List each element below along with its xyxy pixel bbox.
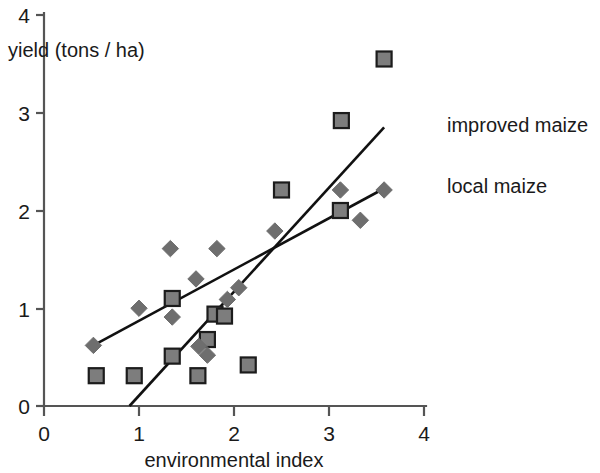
data-point-square — [334, 113, 349, 128]
data-point-square — [190, 368, 205, 383]
y-axis-title: yield (tons / ha) — [8, 39, 145, 61]
y-tick-label-3: 3 — [18, 102, 30, 125]
data-point-square — [165, 349, 180, 364]
data-point-diamond — [332, 182, 348, 198]
data-point-diamond — [164, 309, 180, 325]
chart-page: 4 3 2 1 0 0 1 2 3 4 yield (tons / ha) en… — [0, 0, 600, 473]
x-tick-label-3: 3 — [323, 422, 335, 445]
x-tick-label-4: 4 — [418, 422, 430, 445]
data-point-diamond — [188, 271, 204, 287]
data-point-square — [165, 291, 180, 306]
x-axis-title: environmental index — [145, 449, 324, 471]
legend-label-local-maize: local maize — [447, 175, 547, 197]
data-point-square — [274, 182, 289, 197]
data-point-square — [333, 203, 348, 218]
data-point-diamond — [352, 212, 368, 228]
trend-lines-group — [93, 127, 384, 406]
data-point-diamond — [267, 223, 283, 239]
y-tick-label-4: 4 — [18, 4, 30, 27]
x-tick-label-2: 2 — [228, 422, 240, 445]
data-point-diamond — [162, 240, 178, 256]
data-point-square — [377, 51, 392, 66]
data-point-diamond — [131, 300, 147, 316]
data-point-square — [89, 368, 104, 383]
data-point-diamond — [209, 240, 225, 256]
y-tick-label-0: 0 — [18, 395, 30, 418]
data-point-square — [217, 309, 232, 324]
data-point-diamond — [85, 337, 101, 353]
y-tick-label-1: 1 — [18, 298, 30, 321]
x-tick-label-1: 1 — [133, 422, 145, 445]
y-tick-label-2: 2 — [18, 200, 30, 223]
data-point-square — [241, 357, 256, 372]
data-point-square — [127, 368, 142, 383]
series-improved-maize — [89, 51, 392, 383]
legend-label-improved-maize: improved maize — [447, 114, 588, 136]
x-tick-label-0: 0 — [38, 422, 50, 445]
data-markers-group — [85, 51, 392, 383]
scatter-plot: 4 3 2 1 0 0 1 2 3 4 yield (tons / ha) en… — [0, 0, 600, 473]
data-point-diamond — [376, 182, 392, 198]
